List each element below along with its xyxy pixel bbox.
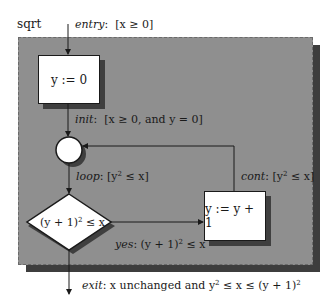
exit-edge-label: exit: x unchanged and y2 ≤ x ≤ (y + 1)2: [82, 279, 301, 292]
flow-connectors: [0, 0, 335, 301]
loop-edge-label: loop: [y2 ≤ x]: [76, 170, 149, 183]
yes-edge-label: yes: (y + 1)2 ≤ x: [115, 238, 205, 251]
cont-arrow: [83, 146, 234, 191]
decision-label: (y + 1)2 ≤ x: [40, 216, 105, 229]
init-edge-label: init: [x ≥ 0, and y = 0]: [75, 113, 203, 126]
cont-edge-label: cont: [y2 ≤ x]: [241, 170, 314, 183]
junction-circle-icon: [56, 137, 82, 163]
